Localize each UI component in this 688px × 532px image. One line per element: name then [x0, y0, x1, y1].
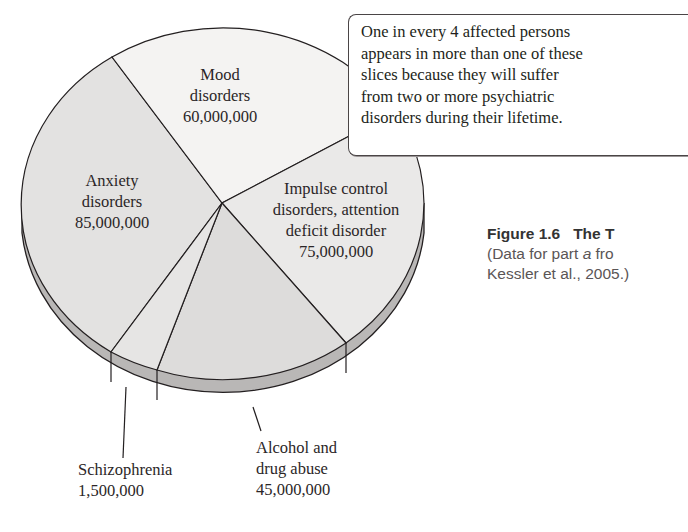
label-mood: Mooddisorders60,000,000	[160, 64, 280, 127]
figure-number: Figure 1.6	[487, 225, 560, 242]
annotation-callout: One in every 4 affected persons appears …	[348, 14, 688, 156]
leader-line-schizophrenia	[123, 387, 126, 458]
label-impulse: Impulse controldisorders, attentiondefic…	[250, 178, 422, 262]
figure-caption: Figure 1.6 The T (Data for part a fro Ke…	[487, 224, 629, 284]
label-alcohol: Alcohol anddrug abuse45,000,000	[256, 437, 337, 500]
label-schizophrenia: Schizophrenia1,500,000	[78, 459, 172, 501]
leader-line-alcohol	[253, 407, 261, 431]
label-anxiety: Anxietydisorders85,000,000	[52, 170, 172, 233]
figure-title: The T	[573, 225, 614, 242]
